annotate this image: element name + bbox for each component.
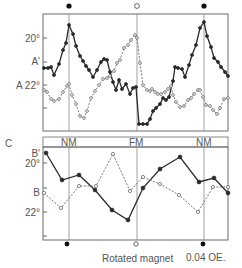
data-point	[135, 86, 138, 89]
bottom-marker-nm-2	[201, 242, 206, 247]
data-point	[115, 89, 118, 92]
data-point	[155, 107, 158, 110]
data-point	[212, 176, 216, 180]
data-point	[183, 105, 186, 108]
top-series-group	[43, 21, 230, 126]
data-point	[132, 87, 135, 90]
data-point	[195, 44, 198, 47]
data-point	[68, 24, 71, 27]
data-point	[226, 185, 229, 188]
data-point	[60, 178, 64, 182]
data-point	[158, 167, 162, 171]
data-point	[223, 98, 226, 101]
data-point	[141, 175, 144, 178]
data-point	[134, 34, 137, 37]
data-point	[159, 103, 162, 106]
top-marker-fm	[135, 4, 140, 9]
data-point	[203, 21, 206, 24]
data-point	[157, 93, 160, 96]
data-point	[126, 218, 130, 222]
bottom-ylabel-22: 22°	[25, 208, 40, 218]
data-point	[177, 67, 180, 70]
data-point	[62, 91, 65, 94]
data-point	[94, 184, 97, 187]
data-point	[59, 206, 62, 209]
data-point	[46, 91, 49, 94]
data-point	[138, 123, 141, 126]
data-point	[68, 83, 71, 86]
data-point	[196, 210, 199, 213]
top-panel-frame	[43, 14, 228, 131]
data-point	[79, 115, 82, 118]
data-point	[129, 93, 132, 96]
data-point	[193, 93, 196, 96]
data-point	[205, 104, 208, 107]
data-point	[50, 66, 53, 69]
data-point	[202, 96, 205, 99]
bottom-panel-ticks	[43, 163, 47, 236]
data-point	[58, 98, 61, 101]
data-point	[172, 80, 175, 83]
rotated-magnet-label: Rotated magnet	[102, 254, 173, 264]
data-point	[111, 152, 114, 155]
data-point	[123, 47, 126, 50]
data-point	[219, 107, 222, 110]
data-point	[142, 123, 145, 126]
panel-letter-c: C	[5, 139, 12, 149]
data-point	[98, 84, 101, 87]
data-point	[158, 182, 161, 185]
data-point	[58, 63, 61, 66]
data-point	[220, 66, 223, 69]
bottom-ylabel-20: 20°	[25, 159, 40, 169]
data-point	[43, 89, 46, 92]
data-point	[94, 90, 97, 93]
data-point	[190, 97, 193, 100]
data-point	[149, 118, 152, 121]
top-marker-nm-2	[201, 3, 206, 8]
data-point	[121, 88, 124, 91]
bottom-ylabel-b: B	[33, 188, 40, 198]
data-point	[188, 64, 191, 67]
data-point	[162, 97, 165, 100]
data-point	[217, 61, 220, 64]
data-point	[165, 99, 168, 102]
data-point	[106, 77, 109, 80]
data-point	[100, 61, 103, 64]
data-point	[146, 123, 149, 126]
data-point	[127, 44, 130, 47]
data-point	[172, 94, 175, 97]
field-strength-label: 0.04 OE.	[186, 253, 225, 263]
data-point	[154, 91, 157, 94]
data-point	[152, 110, 155, 113]
data-point	[136, 37, 139, 40]
data-point	[75, 103, 78, 106]
data-point	[168, 96, 171, 99]
data-point	[75, 45, 78, 48]
data-point	[103, 58, 106, 61]
data-point	[226, 191, 230, 195]
data-point	[146, 89, 149, 92]
data-point	[79, 55, 82, 58]
data-point	[42, 191, 45, 194]
data-point	[211, 185, 214, 188]
data-point	[102, 78, 105, 81]
data-point	[224, 71, 227, 74]
data-point	[43, 67, 46, 70]
data-point	[199, 27, 202, 30]
bottom-marker-nm-1	[65, 242, 70, 247]
data-point	[164, 91, 167, 94]
data-point	[119, 59, 122, 62]
data-point	[167, 88, 170, 91]
data-point	[128, 189, 131, 192]
data-point	[206, 35, 209, 38]
top-ylabel-a-22: A 22°	[16, 81, 40, 91]
data-point	[77, 173, 81, 177]
data-point	[181, 68, 184, 71]
data-point	[216, 113, 219, 116]
data-point	[65, 42, 68, 45]
data-point	[118, 79, 121, 82]
data-point	[88, 69, 91, 72]
axis-label-nm-1: NM	[61, 138, 77, 148]
top-marker-nm-1	[66, 3, 71, 8]
data-point	[141, 186, 145, 190]
